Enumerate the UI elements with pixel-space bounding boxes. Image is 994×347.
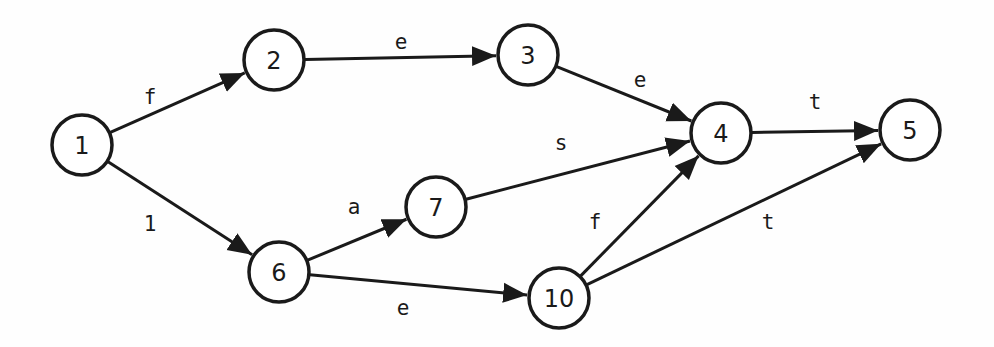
arrow-icon: [308, 219, 407, 260]
edge-10-to-5: [587, 144, 881, 285]
arrow-icon: [305, 56, 496, 60]
edge-label: e: [397, 296, 410, 320]
arrow-icon: [466, 141, 690, 199]
node-2: 2: [244, 30, 304, 90]
edge-label: s: [555, 131, 568, 155]
node-label: 3: [520, 42, 535, 70]
edge-label: f: [144, 85, 157, 109]
node-10: 10: [529, 268, 589, 328]
arrow-icon: [587, 144, 881, 285]
node-label: 6: [271, 259, 286, 287]
arrow-icon: [557, 67, 692, 121]
node-3: 3: [498, 25, 558, 85]
edges-layer: [108, 56, 881, 295]
edge-label: e: [634, 68, 647, 92]
node-7: 7: [406, 177, 466, 237]
edge-label: t: [762, 210, 775, 234]
node-label: 10: [544, 285, 575, 313]
node-4: 4: [691, 103, 751, 163]
arrow-icon: [108, 162, 252, 255]
nodes-layer: 123456710: [52, 25, 940, 328]
arrow-icon: [110, 73, 244, 132]
edge-6-to-10: [310, 275, 527, 295]
node-label: 1: [74, 132, 89, 160]
edge-label: a: [348, 195, 361, 219]
arrow-icon: [310, 275, 527, 295]
edge-3-to-4: [557, 67, 692, 121]
edge-label: e: [395, 30, 408, 54]
edge-1-to-2: [110, 73, 244, 132]
edge-label: f: [589, 210, 602, 234]
edge-label: 1: [144, 212, 157, 236]
node-5: 5: [880, 100, 940, 160]
node-label: 7: [428, 194, 443, 222]
graph-canvas: f1eesaeftt 123456710: [0, 0, 994, 347]
edge-1-to-6: [108, 162, 252, 255]
node-label: 2: [266, 47, 281, 75]
edge-6-to-7: [308, 219, 407, 260]
edge-label: t: [809, 90, 822, 114]
edge-4-to-5: [752, 131, 878, 133]
node-label: 5: [902, 117, 917, 145]
edge-2-to-3: [305, 56, 496, 60]
arrow-icon: [752, 131, 878, 133]
node-6: 6: [249, 242, 309, 302]
node-label: 4: [713, 120, 728, 148]
edge-7-to-4: [466, 141, 690, 199]
node-1: 1: [52, 115, 112, 175]
directed-graph: f1eesaeftt 123456710: [0, 0, 994, 347]
